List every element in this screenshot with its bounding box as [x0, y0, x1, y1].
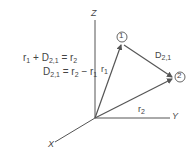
point-1-label: 1	[119, 31, 123, 40]
r1-label: r1	[101, 64, 108, 75]
point-2-label: 2	[177, 71, 181, 80]
z-axis-label: Z	[91, 8, 97, 18]
r2-label: r2	[138, 104, 145, 115]
coordinate-diagram	[0, 0, 195, 152]
d21-label: D2,1	[155, 50, 171, 61]
y-axis-label: Y	[172, 111, 178, 121]
equation-line-2: D2,1 = r2 − r1	[43, 66, 97, 81]
x-axis	[55, 118, 95, 142]
x-axis-label: X	[48, 139, 54, 149]
equation-line-1: r1 + D2,1 = r2	[23, 52, 77, 67]
